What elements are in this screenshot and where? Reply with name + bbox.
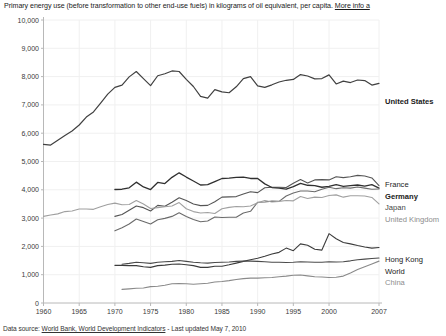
x-tick-label: 1980 xyxy=(178,308,194,315)
y-tick-label: 7,000 xyxy=(21,101,39,108)
more-info-link[interactable]: More info a xyxy=(335,2,370,10)
x-tick-label: 1990 xyxy=(250,308,266,315)
chart-caption: Primary energy use (before transformatio… xyxy=(4,2,442,11)
plot-area: 01,0002,0003,0004,0005,0006,0007,0008,00… xyxy=(0,12,446,322)
x-tick-label: 1975 xyxy=(143,308,159,315)
y-tick-label: 8,000 xyxy=(21,73,39,80)
legend-item-france[interactable]: France xyxy=(385,180,409,189)
axis-lines xyxy=(44,17,383,303)
series-line xyxy=(115,173,379,190)
y-tick-label: 10,000 xyxy=(18,17,40,24)
legend-item-world[interactable]: World xyxy=(385,267,405,276)
gridlines xyxy=(44,20,380,303)
y-tick-label: 0 xyxy=(35,300,39,307)
footer-suffix: - Last updated May 7, 2010 xyxy=(167,325,246,332)
y-tick-label: 9,000 xyxy=(21,45,39,52)
y-tick-label: 3,000 xyxy=(21,215,39,222)
x-tick-label: 1985 xyxy=(214,308,230,315)
caption-text: Primary energy use (before transformatio… xyxy=(4,2,333,10)
y-tick-label: 4,000 xyxy=(21,186,39,193)
x-axis-ticks: 1960196519701975198019851990199520002007 xyxy=(36,303,387,315)
footer-prefix: Data source: xyxy=(3,325,40,332)
y-tick-label: 6,000 xyxy=(21,130,39,137)
x-tick-label: 1960 xyxy=(36,308,52,315)
series-line xyxy=(115,187,379,231)
chart-footer: Data source: World Bank, World Developme… xyxy=(3,324,246,333)
legend: United StatesFranceGermanyJapanUnited Ki… xyxy=(385,97,439,287)
legend-item-china[interactable]: China xyxy=(385,278,406,287)
legend-item-japan[interactable]: Japan xyxy=(385,203,406,212)
y-tick-label: 2,000 xyxy=(21,243,39,250)
series-line xyxy=(122,258,379,264)
x-tick-label: 1970 xyxy=(107,308,123,315)
x-tick-label: 1965 xyxy=(71,308,87,315)
energy-use-chart: Primary energy use (before transformatio… xyxy=(0,0,446,336)
y-tick-label: 5,000 xyxy=(21,158,39,165)
legend-item-hong-kong[interactable]: Hong Kong xyxy=(385,255,423,264)
x-tick-label: 2000 xyxy=(321,308,337,315)
data-source-link[interactable]: World Bank, World Development Indicators xyxy=(42,325,166,332)
x-tick-label: 2007 xyxy=(371,308,387,315)
y-tick-label: 1,000 xyxy=(21,271,39,278)
legend-item-germany[interactable]: Germany xyxy=(385,192,419,201)
legend-item-united-states[interactable]: United States xyxy=(385,97,434,106)
y-axis-ticks: 01,0002,0003,0004,0005,0006,0007,0008,00… xyxy=(18,17,44,307)
x-tick-label: 1995 xyxy=(286,308,302,315)
legend-item-united-kingdom[interactable]: United Kingdom xyxy=(385,215,439,224)
